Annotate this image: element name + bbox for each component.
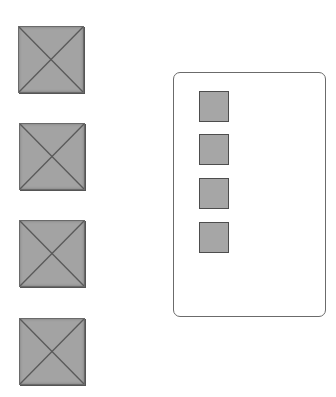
pyramid-tile-3[interactable] bbox=[19, 220, 85, 287]
pyramid-tile-4[interactable] bbox=[19, 318, 85, 385]
pyramid-top-view-icon bbox=[20, 319, 84, 384]
panel-slot-2[interactable] bbox=[199, 134, 229, 165]
pyramid-top-view-icon bbox=[20, 221, 84, 286]
pyramid-tile-1[interactable] bbox=[18, 26, 84, 93]
pyramid-tile-2[interactable] bbox=[19, 123, 85, 190]
pyramid-top-view-icon bbox=[19, 27, 83, 92]
drop-panel[interactable] bbox=[173, 72, 326, 317]
panel-slot-4[interactable] bbox=[199, 222, 229, 253]
panel-slot-1[interactable] bbox=[199, 91, 229, 122]
pyramid-top-view-icon bbox=[20, 124, 84, 189]
panel-slot-3[interactable] bbox=[199, 178, 229, 209]
